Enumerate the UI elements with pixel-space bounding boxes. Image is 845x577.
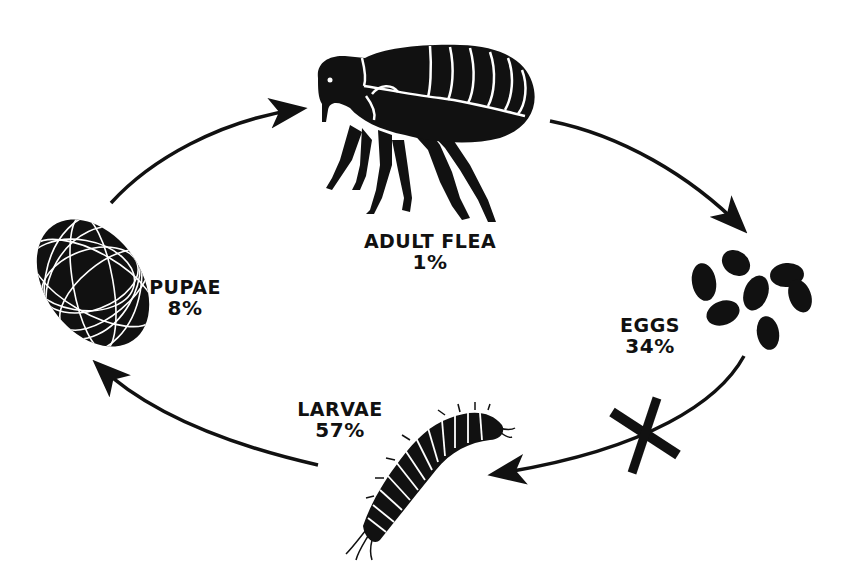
eggs-icon <box>689 245 816 352</box>
stage-percent-larvae: 57% <box>290 420 390 441</box>
diagram-canvas <box>0 0 845 577</box>
stage-name-adult: ADULT FLEA <box>340 232 520 252</box>
adult-flea-icon <box>318 45 535 222</box>
stage-label-eggs: EGGS 34% <box>610 316 690 357</box>
stage-percent-eggs: 34% <box>610 336 690 357</box>
stage-name-larvae: LARVAE <box>290 400 390 420</box>
stage-name-pupae: PUPAE <box>145 278 225 298</box>
stage-percent-adult: 1% <box>340 252 520 273</box>
x-mark-icon <box>612 398 678 473</box>
flea-life-cycle-diagram: ADULT FLEA 1% EGGS 34% LARVAE 57% PUPAE … <box>0 0 845 577</box>
stage-name-eggs: EGGS <box>610 316 690 336</box>
arrow-larvae-to-pupae <box>98 365 318 465</box>
stage-label-pupae: PUPAE 8% <box>145 278 225 319</box>
stage-percent-pupae: 8% <box>145 298 225 319</box>
stage-label-larvae: LARVAE 57% <box>290 400 390 441</box>
arrow-pupae-to-adult <box>111 109 300 203</box>
arrow-adult-to-eggs <box>550 121 742 228</box>
stage-label-adult: ADULT FLEA 1% <box>340 232 520 273</box>
